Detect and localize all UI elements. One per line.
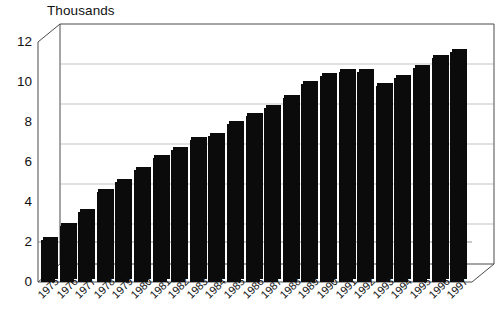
x-axis-labels: 1975197619771978197919801981198219831984…: [0, 0, 504, 322]
bar-chart: Thousands 12 10 8 6 4 2 0 19751976197719…: [0, 0, 504, 322]
